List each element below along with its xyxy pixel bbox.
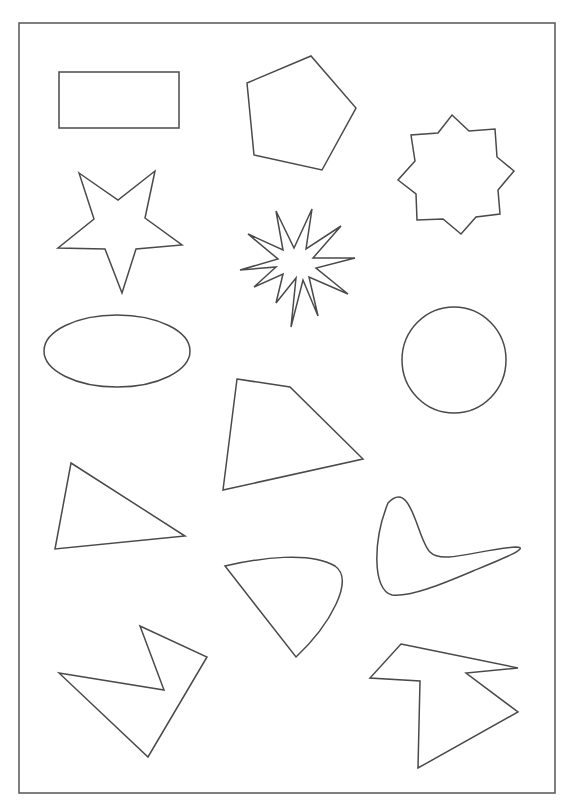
boomerang-shape <box>377 497 520 595</box>
shapes-worksheet <box>0 0 574 812</box>
twelve-point-starburst-shape <box>240 209 355 327</box>
ellipse-shape <box>44 315 190 387</box>
triangle-shape <box>55 463 185 549</box>
zigzag-polygon-left-shape <box>59 626 207 757</box>
zigzag-polygon-right-shape <box>370 644 518 768</box>
five-point-star-shape <box>58 171 182 293</box>
circle-shape <box>402 307 506 413</box>
shape-layer <box>44 56 520 768</box>
drawing-surface <box>0 0 574 812</box>
quadrilateral-shape <box>223 379 363 490</box>
rectangle-shape <box>59 72 179 128</box>
pentagon-shape <box>247 56 356 170</box>
eight-point-star-shape <box>398 115 514 234</box>
border-frame <box>19 23 555 793</box>
rounded-wedge-shape <box>225 557 342 657</box>
